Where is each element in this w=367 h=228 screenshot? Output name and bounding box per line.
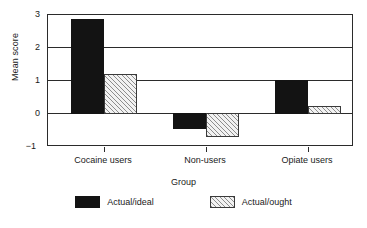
y-tick-label-neg1: −1 [10, 142, 36, 151]
y-tick-label-0: 0 [14, 109, 40, 118]
legend-label-actual-ought: Actual/ought [242, 197, 292, 207]
x-tick-mark-cocaine [104, 147, 105, 152]
legend-swatch-hatch-icon [210, 196, 235, 208]
x-tick-label-cocaine: Cocaine users [74, 156, 132, 165]
bar-nonusers-actual-ideal [173, 113, 206, 129]
x-axis-title: Group [0, 177, 367, 187]
legend-label-actual-ideal: Actual/ideal [107, 197, 154, 207]
legend: Actual/ideal Actual/ought [0, 196, 367, 208]
plot-area [47, 14, 353, 146]
x-tick-mark-opiate [308, 147, 309, 152]
bar-nonusers-actual-ought [206, 113, 239, 137]
y-axis-title: Mean score [10, 12, 20, 102]
y-tick-label-2: 2 [14, 43, 40, 52]
bar-cocaine-actual-ideal [71, 19, 104, 114]
legend-entry-actual-ideal: Actual/ideal [75, 196, 154, 208]
x-tick-label-opiate: Opiate users [281, 156, 332, 165]
x-tick-label-nonusers: Non-users [184, 156, 226, 165]
bar-chart: Mean score 3 2 1 0 −1 Cocaine users Non-… [0, 0, 367, 228]
legend-entry-actual-ought: Actual/ought [210, 196, 292, 208]
legend-swatch-solid-icon [75, 196, 100, 208]
y-tick-label-3: 3 [14, 10, 40, 19]
bar-opiate-actual-ought [308, 106, 341, 114]
bar-opiate-actual-ideal [275, 80, 308, 114]
y-tick-label-1: 1 [14, 76, 40, 85]
x-tick-mark-nonusers [206, 147, 207, 152]
bar-cocaine-actual-ought [104, 74, 137, 114]
